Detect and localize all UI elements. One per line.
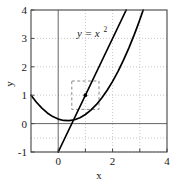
x-axis-title: x	[96, 169, 102, 181]
ytick-label-neg1: -1	[18, 146, 27, 158]
curve-equation-base: y = x	[76, 27, 100, 39]
tangent-point-marker	[84, 93, 88, 97]
xtick-label-0: 0	[55, 155, 61, 167]
ytick-label-2: 2	[22, 61, 28, 73]
xtick-label-2: 2	[110, 155, 116, 167]
y-axis-title: y	[3, 81, 15, 87]
ytick-label-1: 1	[22, 89, 28, 101]
curve-equation-exponent: 2	[104, 25, 108, 34]
chart-canvas: 4 3 2 1 0 -1 0 2 4 x y y = x 2	[0, 0, 183, 185]
xtick-label-4: 4	[164, 155, 170, 167]
ytick-label-0: 0	[22, 118, 28, 130]
ytick-label-3: 3	[22, 32, 28, 44]
plot-figure: 4 3 2 1 0 -1 0 2 4 x y y = x 2	[0, 0, 183, 185]
ytick-label-4: 4	[22, 4, 28, 16]
